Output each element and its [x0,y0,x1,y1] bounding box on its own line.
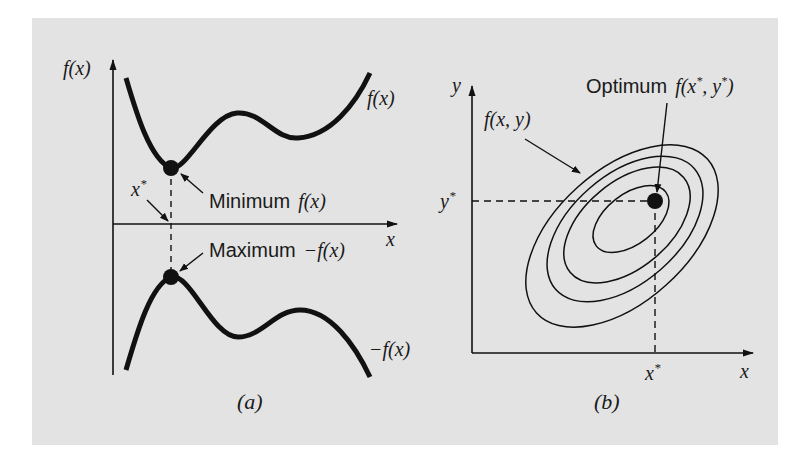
x-star-label-b: x* [644,360,661,384]
contour-2 [543,144,712,305]
contour-4 [492,110,751,362]
minimum-point [163,160,179,176]
panel-a: f(x) x f(x) −f(x) x* Minimum f(x) Maximu… [63,57,411,414]
x-star-arrow [147,200,168,221]
optimization-figure: f(x) x f(x) −f(x) x* Minimum f(x) Maximu… [0,0,811,462]
minimum-annotation: Minimum f(x) [209,190,326,213]
contour-3 [520,128,730,330]
x-star-label: x* [130,176,147,200]
curve-f-of-x [126,73,370,168]
contour-label: f(x, y) [484,108,531,131]
optimum-point [647,193,663,209]
panel-a-caption: (a) [237,389,263,414]
curve-f-of-x-label: f(x) [367,87,395,110]
curve-neg-f-of-x [126,277,370,377]
maximum-point [163,269,179,285]
contour-arrow [525,139,580,173]
curve-neg-f-of-x-label: −f(x) [369,338,411,361]
panel-b: y x y* x* f(x, y) Optimum f(x*, y*) (b) [438,74,753,414]
panel-a-x-axis-label: x [385,228,395,250]
optimum-arrow [657,103,667,192]
y-star-label: y* [438,188,456,213]
panel-b-y-axis-label: y [450,74,461,97]
panel-b-caption: (b) [594,389,620,414]
contour-lines [492,110,751,362]
maximum-arrow [180,253,203,271]
panel-b-x-axis-label: x [739,360,749,382]
maximum-annotation: Maximum −f(x) [209,239,345,262]
panel-a-y-axis-label: f(x) [63,57,91,80]
minimum-arrow [181,174,203,193]
contour-1 [581,172,681,266]
optimum-annotation: Optimum f(x*, y*) [586,74,734,98]
